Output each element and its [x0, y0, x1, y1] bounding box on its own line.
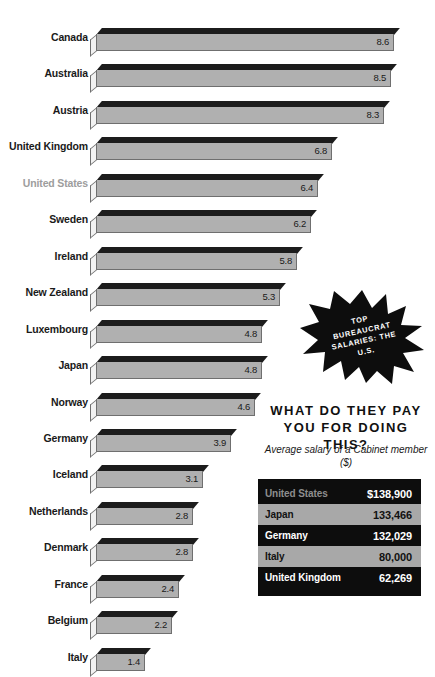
bar-value-label: 5.8 — [279, 255, 292, 267]
bar-category-label: Japan — [0, 359, 88, 371]
bar-category-label: Canada — [0, 31, 88, 43]
bar-category-label: New Zealand — [0, 286, 88, 298]
bar-front-face — [96, 216, 311, 233]
bar-3d: 5.8 — [96, 247, 297, 267]
salary-country-label: United Kingdom — [265, 572, 341, 583]
bar-category-label: Norway — [0, 396, 88, 408]
bar-category-label: Ireland — [0, 250, 88, 262]
bar-front-face — [96, 435, 231, 452]
salary-amount-value: $138,900 — [367, 488, 412, 500]
salary-amount-value: 133,466 — [373, 509, 412, 521]
bar-front-face — [96, 180, 318, 197]
bar-value-label: 4.8 — [244, 364, 257, 376]
salary-country-label: Germany — [265, 530, 308, 541]
bar-value-label: 2.2 — [154, 619, 167, 631]
bar-category-label: United Kingdom — [0, 140, 88, 152]
bar-value-label: 4.8 — [244, 328, 257, 340]
bar-value-label: 6.4 — [300, 182, 313, 194]
bar-front-face — [96, 34, 394, 51]
bar-value-label: 8.3 — [366, 109, 379, 121]
bar-category-label: Australia — [0, 67, 88, 79]
salary-country-label: Japan — [265, 509, 293, 520]
bar-row: United Kingdom6.8 — [0, 131, 435, 161]
bar-category-label: Austria — [0, 104, 88, 116]
bar-value-label: 8.6 — [376, 36, 389, 48]
bar-3d: 3.1 — [96, 465, 203, 485]
bar-front-face — [96, 107, 384, 124]
bar-3d: 2.4 — [96, 575, 179, 595]
bar-3d: 6.2 — [96, 210, 311, 230]
bar-3d: 2.8 — [96, 502, 193, 522]
bar-front-face — [96, 399, 255, 416]
bar-category-label: Denmark — [0, 541, 88, 553]
bar-front-face — [96, 362, 262, 379]
bar-3d: 4.6 — [96, 393, 255, 413]
bar-value-label: 2.8 — [175, 546, 188, 558]
callout-subtitle: Average salary of a Cabinet member ($) — [262, 443, 430, 469]
bar-category-label: Luxembourg — [0, 323, 88, 335]
bar-3d: 4.8 — [96, 320, 262, 340]
salary-table-row: Germany132,029 — [258, 525, 421, 546]
bar-3d: 6.8 — [96, 137, 332, 157]
bar-3d: 4.8 — [96, 356, 262, 376]
bar-value-label: 8.5 — [373, 72, 386, 84]
salary-amount-value: 80,000 — [379, 551, 412, 563]
bar-row: United States6.4 — [0, 168, 435, 198]
bar-category-label: Netherlands — [0, 505, 88, 517]
salary-table-row: United States$138,900 — [258, 483, 421, 504]
bar-3d: 2.8 — [96, 538, 193, 558]
salary-amount-value: 132,029 — [373, 530, 412, 542]
salary-table-row: Italy80,000 — [258, 546, 421, 567]
salary-table-row: Japan133,466 — [258, 504, 421, 525]
bar-front-face — [96, 326, 262, 343]
bar-3d: 5.3 — [96, 283, 280, 303]
bar-value-label: 1.4 — [127, 656, 140, 668]
bar-3d: 8.3 — [96, 101, 384, 121]
bar-value-label: 3.1 — [185, 473, 198, 485]
bar-value-label: 3.9 — [213, 437, 226, 449]
bar-row: Ireland5.8 — [0, 241, 435, 271]
salary-table-row: United Kingdom62,269 — [258, 567, 421, 588]
bar-3d: 2.2 — [96, 611, 172, 631]
bar-category-label: Sweden — [0, 213, 88, 225]
starburst-label-wrap: TOP BUREAUCRAT SALARIES: THE U.S. — [300, 288, 425, 384]
salary-country-label: Italy — [265, 551, 285, 562]
bar-category-label: France — [0, 578, 88, 590]
bar-value-label: 5.3 — [262, 291, 275, 303]
salary-amount-value: 62,269 — [379, 572, 412, 584]
bar-category-label: Iceland — [0, 468, 88, 480]
starburst-label: TOP BUREAUCRAT SALARIES: THE U.S. — [320, 307, 405, 364]
bar-3d: 1.4 — [96, 648, 145, 668]
bar-row: Italy1.4 — [0, 642, 435, 672]
bar-3d: 8.6 — [96, 28, 394, 48]
starburst-badge: TOP BUREAUCRAT SALARIES: THE U.S. — [300, 288, 425, 384]
bar-front-face — [96, 70, 391, 87]
bar-category-label: Germany — [0, 432, 88, 444]
bar-row: Sweden6.2 — [0, 204, 435, 234]
salary-country-label: United States — [265, 488, 328, 499]
salary-table: United States$138,900Japan133,466Germany… — [258, 479, 421, 596]
bar-3d: 8.5 — [96, 64, 391, 84]
bar-value-label: 6.8 — [314, 145, 327, 157]
bar-value-label: 4.6 — [237, 401, 250, 413]
bar-category-label: United States — [0, 177, 88, 189]
bar-row: Canada8.6 — [0, 22, 435, 52]
bar-value-label: 2.8 — [175, 510, 188, 522]
bar-category-label: Italy — [0, 651, 88, 663]
bar-row: Austria8.3 — [0, 95, 435, 125]
bar-row: Australia8.5 — [0, 58, 435, 88]
bar-value-label: 6.2 — [293, 218, 306, 230]
bar-category-label: Belgium — [0, 614, 88, 626]
bar-front-face — [96, 289, 280, 306]
bar-3d: 3.9 — [96, 429, 231, 449]
bar-front-face — [96, 253, 297, 270]
bar-row: Belgium2.2 — [0, 605, 435, 635]
bar-front-face — [96, 143, 332, 160]
bar-3d: 6.4 — [96, 174, 318, 194]
bar-value-label: 2.4 — [161, 583, 174, 595]
